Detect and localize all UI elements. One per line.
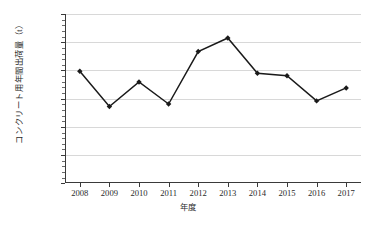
x-axis-tick: [228, 183, 229, 187]
x-axis-tick: [139, 183, 140, 187]
series-polyline: [80, 38, 346, 107]
x-axis-tick: [198, 183, 199, 187]
x-axis-tick: [109, 183, 110, 187]
x-axis-tick: [287, 183, 288, 187]
x-axis-tick: [80, 183, 81, 187]
x-axis-tick: [346, 183, 347, 187]
x-axis-title: 年度: [0, 200, 377, 212]
x-axis-tick: [169, 183, 170, 187]
x-axis-tick-label: 2017: [326, 189, 366, 198]
x-axis-tick: [317, 183, 318, 187]
y-axis-major-tick: [61, 183, 65, 184]
x-axis-tick: [257, 183, 258, 187]
series-markers: [77, 35, 349, 109]
series-line: [65, 14, 361, 183]
plot-area: 010,00020,00030,00040,00050,00060,000 20…: [65, 14, 361, 183]
data-point-marker: [344, 85, 349, 90]
y-axis-title: コンクリート用年間出荷量（t）: [12, 0, 24, 172]
line-chart: コンクリート用年間出荷量（t） 010,00020,00030,00040,00…: [0, 0, 377, 225]
